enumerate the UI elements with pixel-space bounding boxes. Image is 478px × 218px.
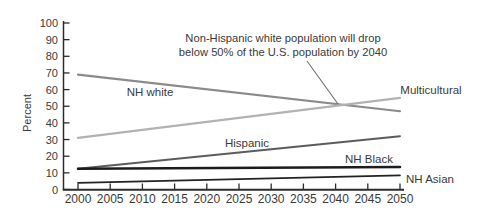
x-tick-label: 2030 <box>258 192 285 206</box>
x-tick-label: 2010 <box>129 192 156 206</box>
y-tick-label: 10 <box>46 167 58 179</box>
series-label-hispanic: Hispanic <box>225 137 269 149</box>
x-tick-label: 2040 <box>322 192 349 206</box>
y-tick-label: 100 <box>40 17 58 29</box>
series-label-nh-black: NH Black <box>345 153 393 165</box>
x-tick-label: 2035 <box>290 192 317 206</box>
population-projection-figure: 0102030405060708090100200020052010201520… <box>0 0 478 218</box>
y-tick-label: 0 <box>52 184 58 196</box>
annotation-line1: Non-Hispanic white population will drop <box>185 32 380 44</box>
x-tick-label: 2025 <box>226 192 253 206</box>
y-tick-label: 80 <box>46 50 58 62</box>
series-label-multicultural: Multicultural <box>400 84 461 96</box>
y-tick-label: 60 <box>46 84 58 96</box>
series-line-nh-asian <box>78 175 400 182</box>
y-axis-title: Percent <box>21 94 33 132</box>
x-tick-label: 2000 <box>65 192 92 206</box>
x-tick-label: 2050 <box>387 192 414 206</box>
series-label-nh-asian: NH Asian <box>406 173 454 185</box>
y-tick-label: 50 <box>46 100 58 112</box>
y-tick-label: 70 <box>46 67 58 79</box>
line-chart: 0102030405060708090100200020052010201520… <box>0 0 478 218</box>
series-label-nh-white: NH white <box>127 86 174 98</box>
y-tick-label: 20 <box>46 150 58 162</box>
x-tick-label: 2045 <box>354 192 381 206</box>
y-tick-label: 40 <box>46 117 58 129</box>
annotation-line2: below 50% of the U.S. population by 2040 <box>179 46 387 58</box>
series-line-nh-black <box>78 167 400 169</box>
x-tick-label: 2015 <box>161 192 188 206</box>
y-tick-label: 90 <box>46 34 58 46</box>
annotation-callout-line <box>307 61 338 104</box>
y-tick-label: 30 <box>46 134 58 146</box>
x-tick-label: 2005 <box>97 192 124 206</box>
x-tick-label: 2020 <box>193 192 220 206</box>
series-line-multicultural <box>78 98 400 138</box>
